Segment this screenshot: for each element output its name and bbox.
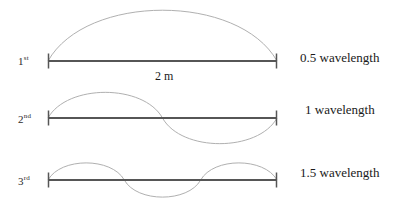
wavelength-label-3: 1.5 wavelength — [300, 166, 379, 179]
standing-wave-figure: 1st 0.5 wavelength 2 m 2nd 1 wavelength … — [0, 0, 404, 201]
